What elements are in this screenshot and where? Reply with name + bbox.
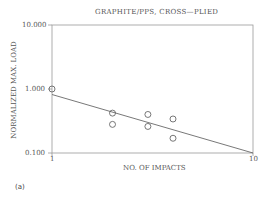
plot-frame: [52, 25, 253, 153]
figure-caption: (a): [15, 183, 25, 191]
data-point: [170, 135, 176, 141]
data-markers: [49, 86, 176, 141]
plot-area: [0, 0, 265, 206]
data-point: [170, 116, 176, 122]
data-point: [145, 111, 151, 117]
regression-line: [52, 95, 253, 153]
data-point: [145, 123, 151, 129]
data-point: [110, 121, 116, 127]
